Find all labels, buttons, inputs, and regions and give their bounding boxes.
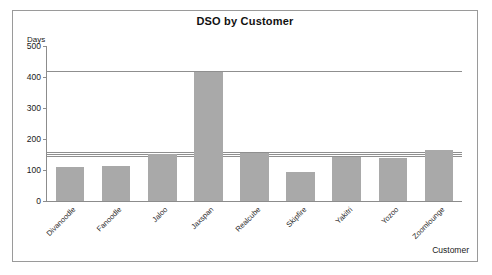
y-tick-label: 200 xyxy=(13,135,41,144)
bar[interactable] xyxy=(56,167,85,201)
y-tick-mark xyxy=(43,170,46,171)
x-tick-label: Skipfire xyxy=(258,205,308,255)
plot-area xyxy=(46,46,462,202)
y-tick-label: 400 xyxy=(13,73,41,82)
bar[interactable] xyxy=(286,172,315,201)
chart-frame: DSO by Customer Days 0100200300400500 Di… xyxy=(12,10,478,262)
x-tick-label: Divanoodle xyxy=(27,205,77,255)
x-tick-label: Fanoodle xyxy=(73,205,123,255)
y-tick-label: 300 xyxy=(13,104,41,113)
bar[interactable] xyxy=(148,154,177,201)
x-tick-label: Jaxspan xyxy=(166,205,216,255)
y-tick-mark xyxy=(43,139,46,140)
y-tick-label: 100 xyxy=(13,166,41,175)
reference-line xyxy=(47,71,462,72)
y-tick-mark xyxy=(43,108,46,109)
y-tick-label: 500 xyxy=(13,42,41,51)
bar[interactable] xyxy=(194,72,223,201)
y-tick-mark xyxy=(43,46,46,47)
x-axis-title: Customer xyxy=(432,245,469,255)
bar[interactable] xyxy=(240,153,269,201)
chart-title: DSO by Customer xyxy=(13,15,477,27)
bar[interactable] xyxy=(425,150,454,201)
bar[interactable] xyxy=(102,166,131,201)
x-tick-label: Yozoo xyxy=(350,205,400,255)
x-tick-label: Realcube xyxy=(212,205,262,255)
x-tick-label: Yakitri xyxy=(304,205,354,255)
x-tick-label: Jaloo xyxy=(119,205,169,255)
y-tick-label: 0 xyxy=(13,197,41,206)
bar[interactable] xyxy=(379,158,408,201)
y-tick-mark xyxy=(43,77,46,78)
y-tick-mark xyxy=(43,201,46,202)
bar[interactable] xyxy=(332,157,361,201)
